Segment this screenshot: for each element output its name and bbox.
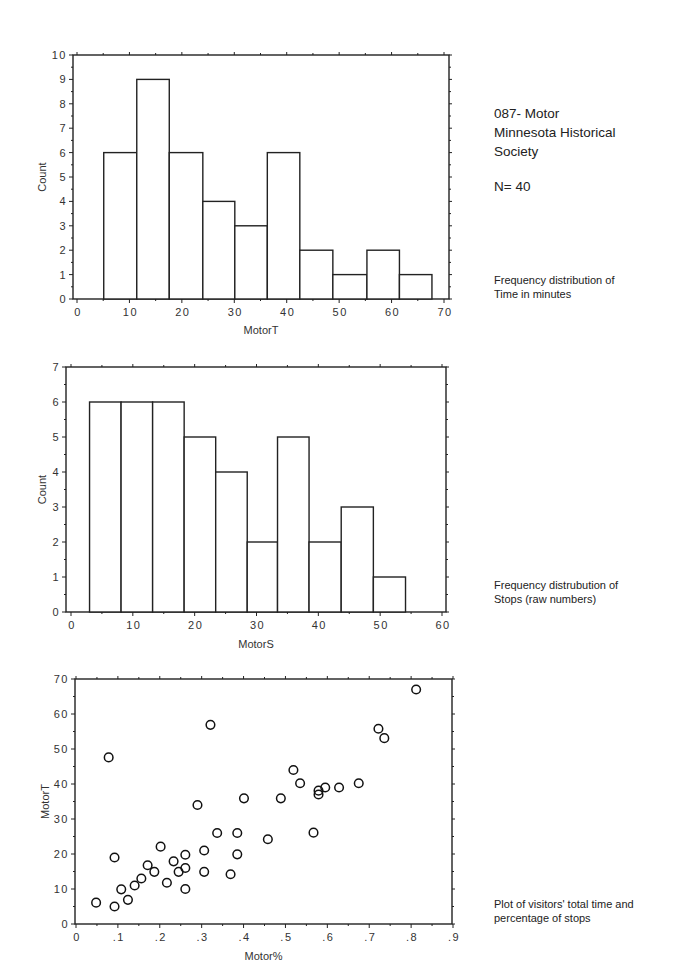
- scatter-point: [213, 829, 222, 838]
- histogram-bar: [267, 153, 300, 299]
- x-tick-label: .1: [113, 931, 125, 943]
- histogram-bar: [300, 250, 333, 299]
- histogram-bar: [309, 542, 341, 612]
- scatter-point: [289, 766, 298, 775]
- histogram-bar: [184, 437, 216, 612]
- scatter-point: [412, 685, 421, 694]
- scatter-point: [200, 846, 209, 855]
- histogram-bar: [90, 402, 122, 612]
- caption-chart1: Frequency distribution of Time in minute…: [494, 273, 614, 301]
- x-tick-label: 60: [385, 306, 400, 318]
- y-tick-label: 50: [54, 743, 69, 755]
- scatter-point: [181, 885, 190, 894]
- scatter-point: [335, 783, 344, 792]
- scatter-point: [92, 898, 101, 907]
- caption-chart2-line1: Frequency distrubution of: [494, 578, 618, 592]
- exhibit-title: 087- Motor Minnesota Historical Society: [494, 104, 616, 161]
- y-tick-label: 4: [52, 466, 60, 478]
- y-tick-label: 8: [59, 98, 67, 110]
- x-tick-label: 70: [437, 306, 452, 318]
- histogram-bar: [137, 79, 170, 299]
- scatter-point: [374, 724, 383, 733]
- x-tick-label: .8: [406, 931, 418, 943]
- histogram-bar: [216, 472, 248, 612]
- x-tick-label: .9: [448, 931, 460, 943]
- y-tick-label: 0: [52, 606, 60, 618]
- histogram-bar: [399, 275, 432, 299]
- x-tick-label: 0: [73, 931, 81, 943]
- caption-chart2-line2: Stops (raw numbers): [494, 592, 618, 606]
- x-tick-label: 40: [280, 306, 295, 318]
- x-tick-label: .6: [322, 931, 334, 943]
- scatter-point: [233, 829, 242, 838]
- scatter-point: [233, 850, 242, 859]
- scatter-point: [264, 835, 273, 844]
- scatter-point: [156, 842, 165, 851]
- y-tick-label: 5: [59, 171, 67, 183]
- caption-chart2: Frequency distrubution of Stops (raw num…: [494, 578, 618, 606]
- histogram-motor-stops: 012345670102030405060MotorSCount: [36, 361, 451, 650]
- exhibit-title-line3: Society: [494, 142, 616, 161]
- scatter-point: [206, 721, 215, 730]
- caption-chart1-line2: Time in minutes: [494, 287, 614, 301]
- scatter-point: [226, 870, 235, 879]
- y-tick-label: 4: [59, 195, 67, 207]
- y-tick-label: 30: [54, 813, 69, 825]
- scatter-point: [163, 878, 172, 887]
- scatter-point: [110, 853, 119, 862]
- y-tick-label: 0: [61, 918, 69, 930]
- y-tick-label: 70: [54, 673, 69, 685]
- histogram-motor-time: 012345678910010203040506070MotorTCount: [36, 49, 453, 336]
- y-tick-label: 6: [59, 147, 67, 159]
- y-tick-label: 1: [59, 269, 67, 281]
- y-axis-title: Count: [36, 162, 48, 191]
- y-tick-label: 60: [54, 708, 69, 720]
- x-tick-label: .2: [155, 931, 167, 943]
- y-tick-label: 7: [52, 361, 60, 373]
- scatter-point: [277, 794, 286, 803]
- caption-chart3-line1: Plot of visitors' total time and: [494, 897, 634, 911]
- histogram-bar: [373, 577, 405, 612]
- x-tick-label: .5: [280, 931, 292, 943]
- scatter-point: [137, 874, 146, 883]
- histogram-bar: [367, 250, 400, 299]
- exhibit-title-line2: Minnesota Historical: [494, 123, 616, 142]
- histogram-bar: [121, 402, 153, 612]
- y-tick-label: 3: [59, 220, 67, 232]
- x-axis-title: MotorT: [244, 324, 279, 336]
- x-tick-label: 30: [250, 619, 265, 631]
- x-tick-label: .7: [364, 931, 376, 943]
- scatter-point: [296, 779, 305, 788]
- x-tick-label: 0: [74, 306, 82, 318]
- x-tick-label: 50: [333, 306, 348, 318]
- scatter-point: [380, 734, 389, 743]
- histogram-bar: [153, 402, 185, 612]
- scatter-point: [181, 850, 190, 859]
- caption-chart3-line2: percentage of stops: [494, 911, 634, 925]
- scatter-point: [354, 779, 363, 788]
- y-tick-label: 9: [59, 73, 67, 85]
- y-axis-title: Count: [36, 475, 48, 504]
- x-tick-label: 0: [68, 619, 76, 631]
- y-tick-label: 2: [52, 536, 60, 548]
- scatter-point: [200, 868, 209, 877]
- sample-size-label: N= 40: [494, 179, 530, 194]
- y-tick-label: 7: [59, 122, 67, 134]
- x-tick-label: .4: [238, 931, 250, 943]
- histogram-bar: [104, 153, 137, 299]
- y-tick-label: 5: [52, 431, 60, 443]
- histogram-bar: [169, 153, 203, 299]
- y-tick-label: 1: [52, 571, 60, 583]
- x-axis-title: MotorS: [238, 638, 273, 650]
- histogram-bar: [235, 226, 268, 299]
- y-tick-label: 20: [54, 848, 69, 860]
- x-tick-label: 40: [312, 619, 327, 631]
- scatter-point: [193, 801, 202, 810]
- x-tick-label: 60: [435, 619, 450, 631]
- histogram-bar: [203, 201, 235, 299]
- y-tick-label: 2: [59, 244, 67, 256]
- histogram-bar: [278, 437, 310, 612]
- scatter-point: [169, 857, 178, 866]
- scatter-point: [117, 885, 126, 894]
- histogram-bar: [341, 507, 373, 612]
